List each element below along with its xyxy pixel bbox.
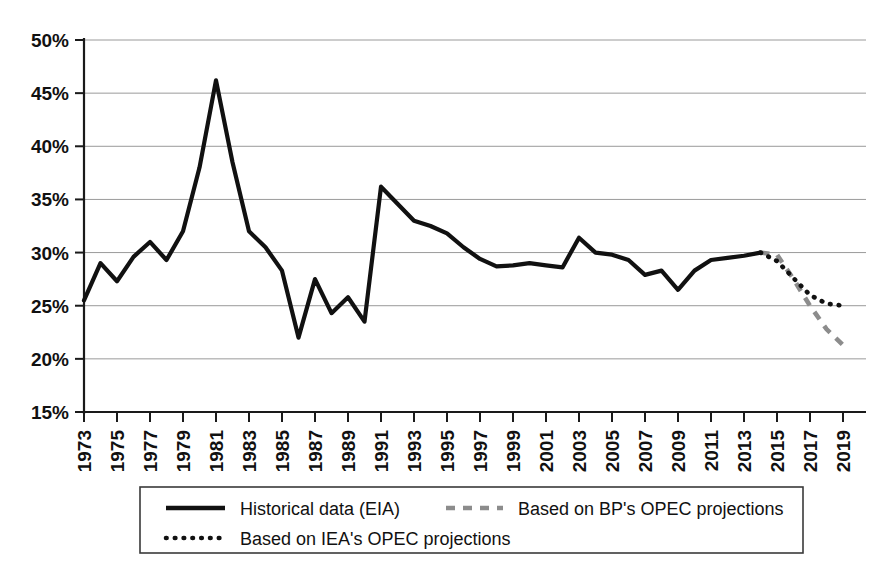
y-axis-tick-label: 35% xyxy=(31,189,69,210)
y-axis-tick-label: 30% xyxy=(31,243,69,264)
gridlines-group xyxy=(84,40,866,359)
x-axis-tick-label: 1987 xyxy=(305,430,326,472)
legend: Historical data (EIA) Based on BP's OPEC… xyxy=(140,487,803,553)
opec-market-share-line-chart: 15%20%25%30%35%40%45%50% 197319751977197… xyxy=(0,0,891,588)
x-axis-tick-label: 1983 xyxy=(239,430,260,472)
x-axis-tick-label: 1975 xyxy=(107,430,128,473)
legend-label-iea: Based on IEA's OPEC projections xyxy=(240,529,511,549)
chart-container: 15%20%25%30%35%40%45%50% 197319751977197… xyxy=(0,0,891,588)
x-axis-tick-label: 1995 xyxy=(437,430,458,473)
x-axis-tick-label: 2005 xyxy=(602,430,623,473)
x-axis-tick-label: 1999 xyxy=(503,430,524,472)
y-axis-tick-label: 45% xyxy=(31,83,69,104)
x-axis-tick-label: 1977 xyxy=(140,430,161,472)
x-axis-tick-label: 1989 xyxy=(338,430,359,472)
legend-label-historical: Historical data (EIA) xyxy=(240,499,400,519)
y-axis-tick-label: 25% xyxy=(31,296,69,317)
series-line-bp-opec-projections xyxy=(761,253,844,345)
x-axis-tick-label: 2001 xyxy=(536,430,557,473)
x-axis-tick-label: 1979 xyxy=(173,430,194,472)
x-axis-tick-label: 1985 xyxy=(272,430,293,473)
x-axis-tick-label: 2009 xyxy=(668,430,689,472)
series-line-historical-data xyxy=(84,80,761,337)
x-axis-tick-label: 2019 xyxy=(833,430,854,472)
x-axis-tick-label: 1991 xyxy=(371,430,392,473)
x-axis-tick-label: 1973 xyxy=(74,430,95,472)
x-axis-tick-label: 2015 xyxy=(767,430,788,473)
x-axis-tick-label: 1981 xyxy=(206,430,227,473)
legend-label-bp: Based on BP's OPEC projections xyxy=(518,499,784,519)
x-axis-tick-label: 2003 xyxy=(569,430,590,472)
x-axis-tick-label: 2017 xyxy=(800,430,821,472)
x-axis-tick-label: 2013 xyxy=(734,430,755,472)
y-axis-group: 15%20%25%30%35%40%45%50% xyxy=(31,30,84,423)
y-axis-tick-label: 15% xyxy=(31,402,69,423)
series-line-iea-opec-projections xyxy=(761,253,844,306)
y-axis-tick-label: 50% xyxy=(31,30,69,51)
y-axis-tick-label: 40% xyxy=(31,136,69,157)
x-axis-tick-label: 2011 xyxy=(701,430,722,472)
x-axis-tick-label: 1993 xyxy=(404,430,425,472)
y-axis-tick-label: 20% xyxy=(31,349,69,370)
x-axis-tick-label: 1997 xyxy=(470,430,491,472)
x-axis-group: 1973197519771979198119831985198719891991… xyxy=(74,412,866,472)
x-axis-tick-label: 2007 xyxy=(635,430,656,472)
